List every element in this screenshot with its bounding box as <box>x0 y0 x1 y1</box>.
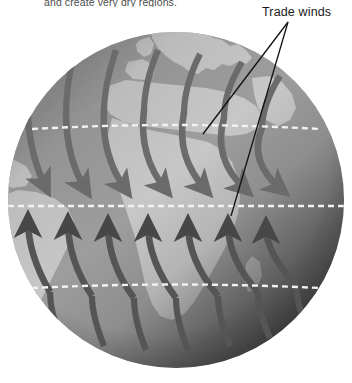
globe-illustration <box>0 0 352 383</box>
wind-arrow-tail <box>28 62 34 120</box>
latitude-line-lower-mid <box>112 373 240 376</box>
latitude-line-upper-mid <box>124 27 228 30</box>
globe-sphere <box>0 0 352 383</box>
figure-globe-trade-winds: and create very dry regions. Trade winds <box>0 0 352 383</box>
